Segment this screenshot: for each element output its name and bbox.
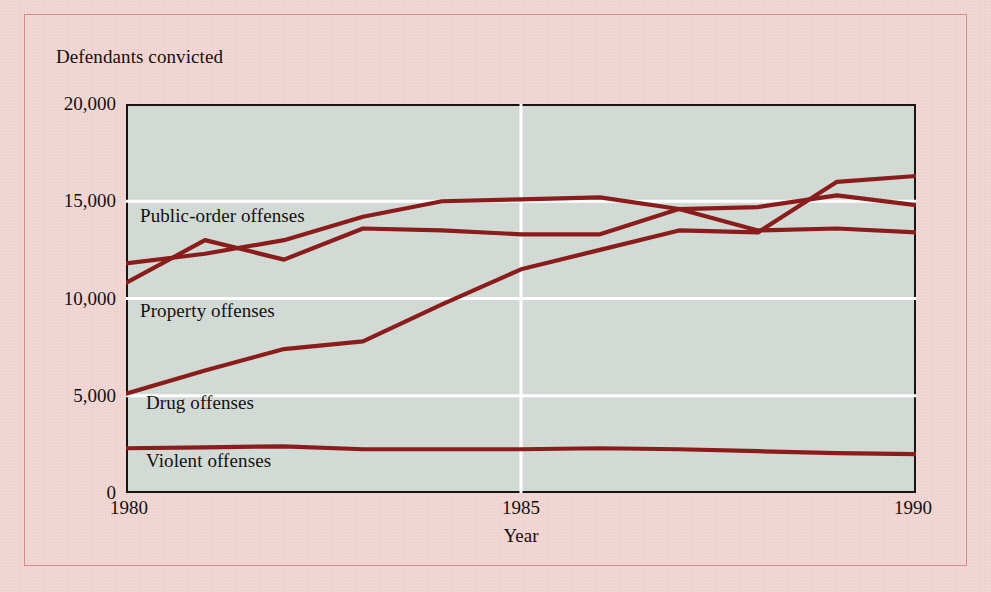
series-label: Public-order offenses <box>140 205 305 227</box>
series-label: Violent offenses <box>146 450 271 472</box>
plot-wrapper <box>126 104 916 493</box>
series-label: Drug offenses <box>146 392 254 414</box>
page-title: Defendants convicted <box>56 46 223 68</box>
x-tick-label: 1990 <box>894 497 932 519</box>
series-label: Property offenses <box>140 300 275 322</box>
x-axis-title: Year <box>126 525 916 547</box>
y-axis-tick-labels: 05,00010,00015,00020,000 <box>0 104 116 493</box>
y-tick-label: 5,000 <box>73 385 116 407</box>
y-tick-label: 15,000 <box>64 190 116 212</box>
y-tick-label: 10,000 <box>64 288 116 310</box>
x-axis-tick-labels: 198019851990 <box>126 497 916 523</box>
line-chart <box>126 104 916 493</box>
x-tick-label: 1980 <box>110 497 148 519</box>
x-tick-label: 1985 <box>502 497 540 519</box>
y-tick-label: 20,000 <box>64 93 116 115</box>
